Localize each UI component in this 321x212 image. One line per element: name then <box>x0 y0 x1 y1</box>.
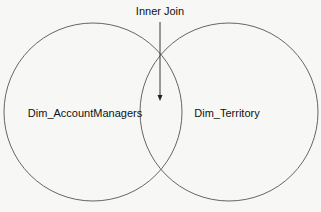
inner-join-label: Inner Join <box>136 5 184 17</box>
right-set-label: Dim_Territory <box>194 107 260 119</box>
venn-diagram: Inner Join Dim_AccountManagers Dim_Terri… <box>0 0 321 212</box>
left-set-label: Dim_AccountManagers <box>28 107 143 119</box>
arrow-head-icon <box>158 95 163 101</box>
venn-svg: Inner Join Dim_AccountManagers Dim_Terri… <box>0 0 321 212</box>
